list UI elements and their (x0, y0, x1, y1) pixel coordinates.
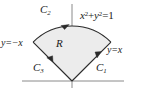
label-curve-c3-subscript: 3 (40, 67, 43, 74)
label-circle-equation: x2+y2=1 (80, 10, 114, 21)
circle-eq-rhs: 1 (108, 9, 113, 21)
label-curve-c2-subscript: 2 (47, 9, 50, 16)
label-curve-c2: C2 (40, 4, 51, 17)
label-curve-c1-subscript: 1 (103, 67, 106, 74)
label-curve-c3: C3 (33, 62, 44, 75)
figure-sector-region: C2 x2+y2=1 y=−x y=x R C3 C1 (0, 0, 142, 96)
label-region-r: R (56, 38, 63, 49)
label-curve-c1: C1 (96, 62, 107, 75)
label-line-y-equals-x: y=x (107, 45, 122, 55)
label-line-y-equals-negative-x: y=−x (1, 38, 23, 48)
